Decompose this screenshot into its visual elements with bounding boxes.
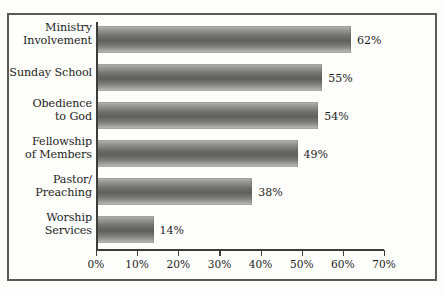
x-axis-tick-mark	[302, 250, 303, 256]
x-axis-tick-label: 20%	[167, 258, 191, 270]
x-axis-tick-mark	[261, 250, 262, 256]
category-label-worship-services: Worship Services	[4, 212, 92, 237]
category-label-fellowship-of-members: Fellowship of Members	[4, 136, 92, 161]
bar-value-label: 49%	[304, 147, 328, 160]
bar-value-label: 55%	[328, 71, 352, 84]
bar-row: 55%	[96, 64, 384, 91]
category-label-line1: Ministry	[4, 22, 92, 35]
category-label-ministry-involvement: Ministry Involvement	[4, 22, 92, 47]
bar-fellowship-of-members	[96, 140, 298, 167]
x-axis-tick-label: 70%	[372, 258, 396, 270]
category-axis-labels: Ministry Involvement Sunday School Obedi…	[0, 22, 92, 250]
bar-sunday-school	[96, 64, 322, 91]
plot-area: 62% 55% 54% 49% 38% 14%	[96, 22, 384, 250]
category-label-line2: of Members	[4, 149, 92, 162]
category-label-line2: to God	[4, 111, 92, 124]
bar-pastor-preaching	[96, 178, 252, 205]
category-label-line2: Preaching	[4, 187, 92, 200]
x-axis-tick-mark	[96, 250, 97, 256]
x-axis-tick-label: 60%	[331, 258, 355, 270]
category-label-line2: Services	[4, 225, 92, 238]
x-axis-tick-label: 0%	[88, 258, 105, 270]
category-label-line1: Fellowship	[4, 136, 92, 149]
x-axis-tick-label: 50%	[290, 258, 314, 270]
bar-row: 14%	[96, 216, 384, 243]
x-axis-tick-mark	[384, 250, 385, 256]
category-label-sunday-school: Sunday School	[4, 67, 92, 80]
bar-obedience-to-god	[96, 102, 318, 129]
bar-chart-figure: Ministry Involvement Sunday School Obedi…	[0, 0, 445, 294]
x-axis-tick-mark	[178, 250, 179, 256]
category-label-obedience-to-god: Obedience to God	[4, 98, 92, 123]
x-axis-tick-label: 30%	[208, 258, 232, 270]
bar-row: 62%	[96, 26, 384, 53]
category-label-line1: Sunday School	[4, 67, 92, 80]
bar-row: 54%	[96, 102, 384, 129]
category-label-line1: Pastor/	[4, 174, 92, 187]
x-axis-tick-label: 40%	[249, 258, 273, 270]
x-axis-tick-label: 10%	[125, 258, 149, 270]
bar-value-label: 38%	[258, 185, 282, 198]
bar-value-label: 54%	[324, 109, 348, 122]
bar-row: 49%	[96, 140, 384, 167]
category-label-line1: Obedience	[4, 98, 92, 111]
bar-value-label: 62%	[357, 33, 381, 46]
bar-ministry-involvement	[96, 26, 351, 53]
category-label-line1: Worship	[4, 212, 92, 225]
x-axis-ticks: 0%10%20%30%40%50%60%70%	[96, 250, 384, 276]
x-axis-tick-mark	[343, 250, 344, 256]
bar-row: 38%	[96, 178, 384, 205]
bar-worship-services	[96, 216, 154, 243]
category-label-line2: Involvement	[4, 35, 92, 48]
x-axis-tick-mark	[137, 250, 138, 256]
category-label-pastor-preaching: Pastor/ Preaching	[4, 174, 92, 199]
y-axis-line	[96, 22, 98, 250]
bar-value-label: 14%	[160, 223, 184, 236]
x-axis-tick-mark	[219, 250, 220, 256]
